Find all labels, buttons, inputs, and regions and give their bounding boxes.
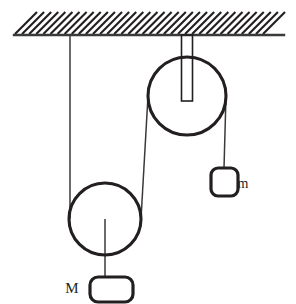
- ceiling-hatching: [15, 12, 285, 34]
- mass-M-label: M: [65, 280, 78, 296]
- rope-group: [70, 36, 226, 278]
- mass-m-label: m: [238, 176, 249, 191]
- pulley-group: [69, 57, 226, 255]
- upper-pulley-bracket: [182, 35, 193, 101]
- pulley-diagram-figure: M m: [0, 0, 296, 304]
- rope-upper-left-to-lower-right: [141, 96, 148, 219]
- mass-m-block: [211, 168, 238, 196]
- diagram-canvas: M m: [0, 0, 296, 304]
- mass-M-block: [90, 277, 133, 302]
- mass-group: M m: [65, 168, 248, 302]
- upper-pulley: [148, 57, 226, 135]
